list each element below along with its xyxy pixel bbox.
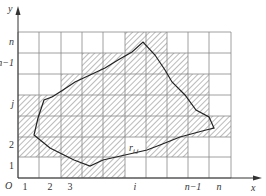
hatched-cell [146,137,167,157]
hatched-cell [146,53,167,74]
hatched-cell [188,74,209,95]
hatched-cell [18,95,39,116]
hatched-cell [167,53,188,74]
hatched-cell [82,157,103,178]
x-tick-label: n−1 [185,181,202,192]
hatched-cell [167,74,188,95]
hatched-cell [146,74,167,95]
hatched-cell [209,116,231,137]
grid-region-diagram: y x O 123in−1n nn−1j21 ri,j [0,0,266,196]
hatched-cell [103,116,125,137]
x-tick-label: n [217,181,222,192]
x-axis-arrow-icon [253,176,262,181]
hatched-cell [146,32,167,53]
cell-label: ri,j [129,142,139,155]
hatched-cell [61,137,82,157]
origin-label: O [5,180,12,191]
hatched-cells [18,32,231,178]
hatched-cell [146,116,167,137]
y-tick-label: 1 [9,160,14,171]
y-tick-labels: nn−1j21 [0,36,14,171]
hatched-cell [125,116,146,137]
hatched-cell [82,95,103,116]
hatched-cell [125,95,146,116]
x-axis-label: x [250,182,256,193]
x-tick-label: 2 [48,181,53,192]
x-tick-labels: 123in−1n [23,181,222,192]
hatched-cell [103,95,125,116]
hatched-cell [61,157,82,178]
y-axis-label: y [7,3,13,14]
y-axis-arrow-icon [16,6,21,15]
hatched-cell [167,116,188,137]
x-tick-label: i [134,181,137,192]
hatched-cell [61,116,82,137]
hatched-cell [167,95,188,116]
hatched-cell [18,137,39,157]
x-tick-label: 1 [23,181,28,192]
y-tick-label: j [9,98,14,109]
hatched-cell [39,116,61,137]
hatched-cell [188,95,209,116]
hatched-cell [103,74,125,95]
hatched-cell [61,95,82,116]
y-tick-label: n [9,36,14,47]
hatched-cell [103,53,125,74]
hatched-cell [146,95,167,116]
hatched-cell [125,53,146,74]
hatched-cell [82,137,103,157]
hatched-cell [39,137,61,157]
hatched-cell [103,157,125,178]
hatched-cell [82,116,103,137]
y-tick-label: n−1 [0,57,14,68]
hatched-cell [125,74,146,95]
x-tick-label: 3 [68,181,73,192]
hatched-cell [103,137,125,157]
hatched-cell [167,137,188,157]
y-tick-label: 2 [9,139,14,150]
